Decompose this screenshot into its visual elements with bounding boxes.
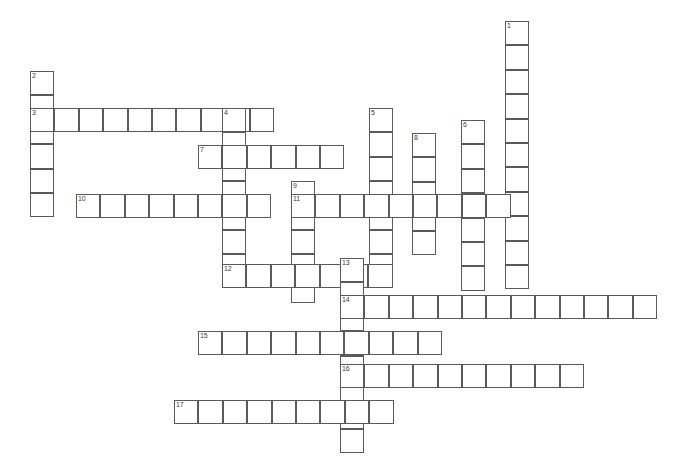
- crossword-cell[interactable]: [369, 331, 393, 355]
- crossword-cell[interactable]: [505, 216, 529, 240]
- crossword-cell[interactable]: [176, 108, 200, 132]
- crossword-cell[interactable]: [222, 194, 246, 218]
- crossword-cell[interactable]: [462, 194, 486, 218]
- crossword-cell[interactable]: [30, 144, 54, 168]
- crossword-cell[interactable]: [125, 194, 149, 218]
- crossword-cell[interactable]: 8: [412, 133, 436, 157]
- crossword-cell[interactable]: [438, 364, 462, 388]
- crossword-cell[interactable]: [271, 145, 295, 169]
- crossword-cell[interactable]: [152, 108, 176, 132]
- crossword-cell[interactable]: [369, 132, 393, 156]
- crossword-cell[interactable]: [505, 167, 529, 191]
- crossword-cell[interactable]: [30, 193, 54, 217]
- crossword-cell[interactable]: [511, 295, 535, 319]
- crossword-cell[interactable]: [389, 194, 413, 218]
- crossword-cell[interactable]: [149, 194, 173, 218]
- crossword-cell[interactable]: [100, 194, 124, 218]
- crossword-cell[interactable]: [413, 364, 437, 388]
- crossword-cell[interactable]: [320, 400, 344, 424]
- crossword-cell[interactable]: [462, 364, 486, 388]
- crossword-cell[interactable]: [30, 169, 54, 193]
- crossword-cell[interactable]: [438, 295, 462, 319]
- crossword-cell[interactable]: [198, 400, 222, 424]
- crossword-cell[interactable]: 5: [369, 108, 393, 132]
- crossword-cell[interactable]: [296, 331, 320, 355]
- crossword-cell[interactable]: [345, 400, 369, 424]
- crossword-cell[interactable]: [413, 194, 437, 218]
- crossword-cell[interactable]: [223, 400, 247, 424]
- crossword-cell[interactable]: [505, 119, 529, 143]
- crossword-cell[interactable]: [437, 194, 461, 218]
- crossword-cell[interactable]: [505, 70, 529, 94]
- crossword-cell[interactable]: [364, 364, 388, 388]
- crossword-cell[interactable]: [412, 231, 436, 255]
- crossword-cell[interactable]: [505, 45, 529, 69]
- crossword-cell[interactable]: [246, 264, 270, 288]
- crossword-cell[interactable]: 13: [340, 258, 364, 282]
- crossword-cell[interactable]: [486, 194, 510, 218]
- crossword-cell[interactable]: 7: [198, 145, 222, 169]
- crossword-cell[interactable]: [198, 194, 222, 218]
- crossword-cell[interactable]: 1: [505, 21, 529, 45]
- crossword-cell[interactable]: [535, 295, 559, 319]
- crossword-cell[interactable]: [389, 295, 413, 319]
- crossword-cell[interactable]: [296, 145, 320, 169]
- crossword-cell[interactable]: [461, 266, 485, 290]
- crossword-cell[interactable]: [272, 400, 296, 424]
- crossword-cell[interactable]: [368, 264, 392, 288]
- crossword-cell[interactable]: [320, 331, 344, 355]
- crossword-cell[interactable]: [486, 364, 510, 388]
- crossword-cell[interactable]: [486, 295, 510, 319]
- crossword-cell[interactable]: 2: [30, 71, 54, 95]
- crossword-cell[interactable]: [461, 242, 485, 266]
- crossword-cell[interactable]: [340, 429, 364, 453]
- crossword-cell[interactable]: [369, 230, 393, 254]
- crossword-cell[interactable]: [461, 169, 485, 193]
- crossword-cell[interactable]: [461, 144, 485, 168]
- crossword-cell[interactable]: [79, 108, 103, 132]
- crossword-cell[interactable]: [505, 265, 529, 289]
- crossword-cell[interactable]: 14: [340, 295, 364, 319]
- crossword-cell[interactable]: [247, 145, 271, 169]
- crossword-cell[interactable]: [412, 157, 436, 181]
- crossword-cell[interactable]: [413, 295, 437, 319]
- crossword-cell[interactable]: 12: [222, 264, 246, 288]
- crossword-cell[interactable]: 16: [340, 364, 364, 388]
- crossword-cell[interactable]: [54, 108, 78, 132]
- crossword-cell[interactable]: [222, 331, 246, 355]
- crossword-cell[interactable]: 11: [291, 194, 315, 218]
- crossword-cell[interactable]: 6: [461, 120, 485, 144]
- crossword-cell[interactable]: [103, 108, 127, 132]
- crossword-cell[interactable]: [505, 143, 529, 167]
- crossword-cell[interactable]: [271, 331, 295, 355]
- crossword-cell[interactable]: [247, 194, 271, 218]
- crossword-cell[interactable]: [222, 230, 246, 254]
- crossword-cell[interactable]: [296, 400, 320, 424]
- crossword-cell[interactable]: [250, 108, 274, 132]
- crossword-cell[interactable]: [505, 241, 529, 265]
- crossword-cell[interactable]: 17: [174, 400, 198, 424]
- crossword-cell[interactable]: [418, 331, 442, 355]
- crossword-cell[interactable]: [364, 194, 388, 218]
- crossword-cell[interactable]: [247, 400, 271, 424]
- crossword-cell[interactable]: [369, 400, 393, 424]
- crossword-cell[interactable]: [633, 295, 657, 319]
- crossword-cell[interactable]: [128, 108, 152, 132]
- crossword-cell[interactable]: [369, 157, 393, 181]
- crossword-cell[interactable]: [461, 218, 485, 242]
- crossword-cell[interactable]: [393, 331, 417, 355]
- crossword-cell[interactable]: [389, 364, 413, 388]
- crossword-cell[interactable]: [291, 230, 315, 254]
- crossword-cell[interactable]: [535, 364, 559, 388]
- crossword-cell[interactable]: [364, 295, 388, 319]
- crossword-cell[interactable]: [320, 145, 344, 169]
- crossword-cell[interactable]: [511, 364, 535, 388]
- crossword-cell[interactable]: [462, 295, 486, 319]
- crossword-cell[interactable]: 3: [30, 108, 54, 132]
- crossword-cell[interactable]: [584, 295, 608, 319]
- crossword-cell[interactable]: [608, 295, 632, 319]
- crossword-cell[interactable]: [174, 194, 198, 218]
- crossword-cell[interactable]: [560, 364, 584, 388]
- crossword-cell[interactable]: [344, 331, 368, 355]
- crossword-cell[interactable]: 10: [76, 194, 100, 218]
